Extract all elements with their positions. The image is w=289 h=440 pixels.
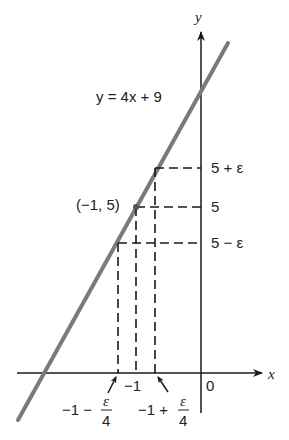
y-axis-label: y [193,9,202,25]
point-marker [133,204,139,210]
x-frac-left-num: ε [103,393,109,409]
point-label: (−1, 5) [76,196,120,213]
origin-label: 0 [206,377,214,394]
x-tick-minus1: −1 [124,377,141,394]
arrow-right-pointer [158,377,168,392]
x-axis-label: x [267,366,275,382]
y-tick-5-plus-eps: 5 + ε [211,159,243,176]
x-frac-left-prefix: −1 − [62,401,92,418]
diagram-canvas: y x 0 y = 4x + 9 (−1, 5) 5 + ε 5 5 − ε −… [0,0,289,440]
x-frac-right-prefix: −1 + [138,401,168,418]
equation-label: y = 4x + 9 [96,88,162,105]
y-tick-5-minus-eps: 5 − ε [211,234,243,251]
x-frac-right-num: ε [180,393,186,409]
x-frac-right-den: 4 [179,412,187,429]
y-tick-5: 5 [211,198,219,215]
arrow-left-pointer [108,377,116,393]
x-frac-left-den: 4 [102,412,110,429]
